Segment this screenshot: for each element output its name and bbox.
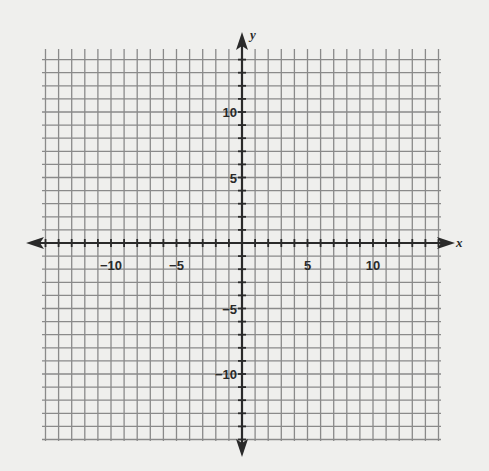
x-tick-label: 10 xyxy=(366,258,380,273)
x-tick-label: −5 xyxy=(169,258,184,273)
axes xyxy=(26,32,455,457)
y-tick-label: 5 xyxy=(230,171,237,186)
x-tick-label: 5 xyxy=(304,258,311,273)
x-axis-label: x xyxy=(455,235,463,250)
coordinate-plane: −10−5510105−5−10 x y xyxy=(0,0,489,471)
y-axis-label: y xyxy=(248,27,256,42)
y-tick-label: 10 xyxy=(223,105,237,120)
y-tick-label: −5 xyxy=(222,302,237,317)
x-tick-label: −10 xyxy=(100,258,122,273)
y-tick-label: −10 xyxy=(215,367,237,382)
